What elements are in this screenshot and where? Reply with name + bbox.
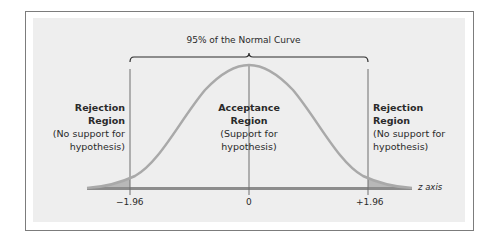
left-region-heading-2: Region bbox=[88, 115, 125, 126]
left-region-note-2: hypothesis) bbox=[40, 140, 125, 153]
right-region-heading-2: Region bbox=[373, 115, 410, 126]
tick-label-neg-1-96: −1.96 bbox=[116, 197, 144, 207]
left-region-heading-1: Rejection bbox=[75, 102, 125, 113]
center-region-note-2: hypothesis) bbox=[199, 140, 299, 153]
right-rejection-region-label: Rejection Region (No support for hypothe… bbox=[373, 101, 468, 153]
center-region-heading-1: Acceptance bbox=[218, 102, 280, 113]
center-region-note-1: (Support for bbox=[199, 127, 299, 140]
diagram-title: 95% of the Normal Curve bbox=[0, 35, 487, 45]
left-region-note-1: (No support for bbox=[40, 127, 125, 140]
bracket-95-percent bbox=[130, 53, 368, 62]
tick-label-pos-1-96: +1.96 bbox=[356, 197, 384, 207]
right-region-note-1: (No support for bbox=[373, 127, 468, 140]
right-region-note-2: hypothesis) bbox=[373, 140, 468, 153]
center-region-heading-2: Region bbox=[230, 115, 267, 126]
left-rejection-region-label: Rejection Region (No support for hypothe… bbox=[40, 101, 125, 153]
acceptance-region-label: Acceptance Region (Support for hypothesi… bbox=[199, 101, 299, 153]
z-axis-label: z axis bbox=[418, 182, 442, 192]
tick-label-zero: 0 bbox=[246, 197, 252, 207]
right-region-heading-1: Rejection bbox=[373, 102, 423, 113]
